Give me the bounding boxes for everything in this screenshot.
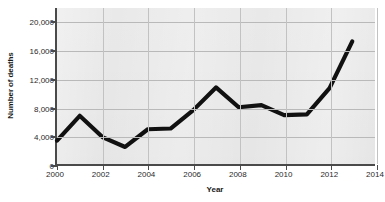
- x-axis-title: Year: [55, 185, 375, 194]
- x-tick-label: 2000: [46, 170, 64, 179]
- y-tick-label: 12,000: [16, 75, 54, 84]
- series-line-deaths: [57, 41, 352, 147]
- x-gridline: [240, 8, 241, 164]
- y-tick-label: 20,000: [16, 18, 54, 27]
- y-tick-mark: [51, 50, 57, 52]
- y-tick-mark: [51, 21, 57, 23]
- x-tick-label: 2006: [183, 170, 201, 179]
- x-gridline: [331, 8, 332, 164]
- x-tick-label: 2004: [138, 170, 156, 179]
- y-gridline: [57, 51, 375, 52]
- x-tick-label: 2014: [366, 170, 384, 179]
- y-tick-mark: [51, 136, 57, 138]
- x-axis-tick-labels: 20002002200420062008201020122014: [55, 170, 375, 184]
- y-gridline: [57, 22, 375, 23]
- x-gridline: [103, 8, 104, 164]
- plot-area: [55, 8, 375, 166]
- x-tick-label: 2002: [92, 170, 110, 179]
- y-tick-label: 4,000: [16, 133, 54, 142]
- x-gridline: [286, 8, 287, 164]
- line-series: [57, 8, 375, 164]
- y-tick-mark: [51, 79, 57, 81]
- y-gridline: [57, 137, 375, 138]
- y-tick-mark: [51, 108, 57, 110]
- x-gridline: [194, 8, 195, 164]
- y-tick-label: 16,000: [16, 47, 54, 56]
- x-tick-label: 2008: [229, 170, 247, 179]
- y-tick-label: 8,000: [16, 104, 54, 113]
- x-tick-label: 2010: [275, 170, 293, 179]
- x-gridline: [377, 8, 378, 164]
- x-gridline: [148, 8, 149, 164]
- y-gridline: [57, 109, 375, 110]
- chart-screenshot: Number of deaths 04,0008,00012,00016,000…: [0, 0, 385, 202]
- y-gridline: [57, 80, 375, 81]
- x-tick-label: 2012: [320, 170, 338, 179]
